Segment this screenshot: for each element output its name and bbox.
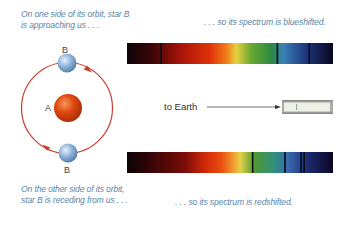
star-b-top bbox=[58, 54, 77, 73]
arrow-head-icon bbox=[275, 105, 281, 109]
telescope-icon bbox=[282, 100, 333, 114]
star-a-label: A bbox=[45, 103, 51, 113]
star-b-bottom-label: B bbox=[64, 165, 70, 175]
star-b-top-label: B bbox=[62, 45, 68, 55]
star-a bbox=[54, 94, 82, 122]
star-b-bottom bbox=[59, 144, 78, 163]
to-earth-label: to Earth bbox=[164, 101, 197, 112]
